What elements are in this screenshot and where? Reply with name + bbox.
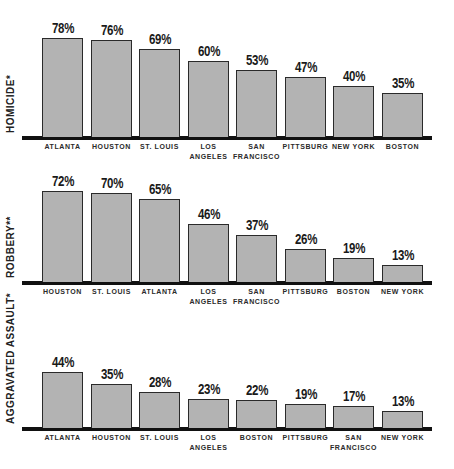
bar xyxy=(236,400,277,428)
category-label: NEW YORK xyxy=(375,433,431,443)
category-label: ST. LOUIS xyxy=(132,433,188,443)
bar xyxy=(382,411,423,428)
value-label: 17% xyxy=(334,388,373,404)
aggravated-assault-chart: AGGRAVATED ASSAULT* 44%ATLANTA35%HOUSTON… xyxy=(0,0,454,469)
category-label: ATLANTA xyxy=(35,433,91,443)
bar xyxy=(285,404,326,428)
bar xyxy=(139,392,180,428)
category-label: SAN FRANCISCO xyxy=(326,433,382,453)
value-label: 28% xyxy=(140,374,179,390)
value-label: 44% xyxy=(43,354,82,370)
value-label: 13% xyxy=(383,393,422,409)
value-label: 22% xyxy=(237,382,276,398)
value-label: 23% xyxy=(189,381,228,397)
category-label: BOSTON xyxy=(229,433,285,443)
aggravated-assault-label-text: AGGRAVATED ASSAULT* xyxy=(5,293,16,424)
bar xyxy=(333,406,374,428)
bar xyxy=(91,384,132,428)
value-label: 35% xyxy=(92,366,131,382)
bar xyxy=(188,399,229,428)
bar xyxy=(42,372,83,428)
value-label: 19% xyxy=(286,386,325,402)
